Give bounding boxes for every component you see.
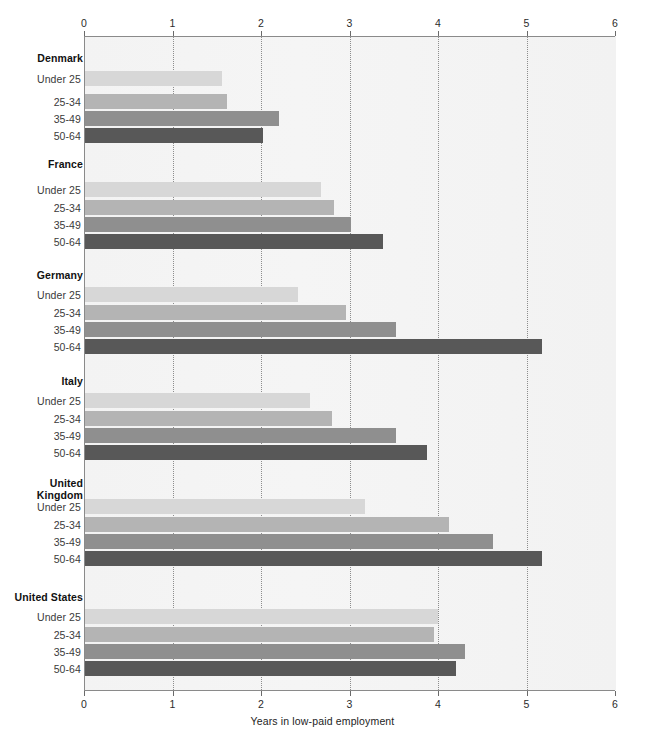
bar-france-35-49 [85, 217, 351, 232]
tick-label-bottom-6: 6 [612, 698, 618, 710]
category-label-50-64: 50-64 [54, 447, 81, 459]
group-label-italy: Italy [61, 375, 83, 387]
tick-label-bottom-2: 2 [258, 698, 264, 710]
bar-united-kingdom-35-49 [85, 534, 493, 549]
bar-denmark-25-34 [85, 94, 227, 109]
x-axis-title-text: Years in low-paid employment [251, 715, 395, 727]
category-label-35-49: 35-49 [54, 113, 81, 125]
tick-mark-bottom-2 [261, 691, 262, 696]
bar-united-kingdom-50-64 [85, 551, 542, 566]
category-label-35-49: 35-49 [54, 324, 81, 336]
tick-mark-bottom-5 [527, 691, 528, 696]
tick-mark-top-2 [261, 31, 262, 36]
bar-italy-35-49 [85, 428, 396, 443]
group-label-denmark: Denmark [37, 52, 83, 64]
category-label-35-49: 35-49 [54, 219, 81, 231]
category-label-50-64: 50-64 [54, 663, 81, 675]
tick-mark-bottom-3 [350, 691, 351, 696]
category-label-25-34: 25-34 [54, 629, 81, 641]
tick-mark-bottom-1 [173, 691, 174, 696]
bar-united-kingdom-25-34 [85, 517, 449, 532]
group-label-united-kingdom: UnitedKingdom [37, 477, 83, 501]
bar-denmark-35-49 [85, 111, 279, 126]
horizontal-bar-chart: 0123456 0123456 DenmarkUnder 2525-3435-4… [0, 0, 655, 742]
category-label-50-64: 50-64 [54, 236, 81, 248]
group-label-line-1: United [37, 477, 83, 489]
category-label-25-34: 25-34 [54, 96, 81, 108]
gridline-x-4 [438, 36, 439, 690]
tick-label-bottom-5: 5 [523, 698, 529, 710]
category-label-50-64: 50-64 [54, 130, 81, 142]
bar-france-25-34 [85, 200, 334, 215]
bar-germany-35-49 [85, 322, 396, 337]
group-label-line-2: Kingdom [37, 489, 83, 501]
bar-denmark-under-25 [85, 71, 222, 86]
bar-united-states-25-34 [85, 627, 434, 642]
tick-mark-top-1 [173, 31, 174, 36]
tick-mark-top-6 [615, 31, 616, 36]
category-label-under-25: Under 25 [37, 73, 81, 85]
category-label-50-64: 50-64 [54, 553, 81, 565]
bar-united-kingdom-under-25 [85, 499, 365, 514]
category-label-under-25: Under 25 [37, 184, 81, 196]
tick-mark-top-3 [350, 31, 351, 36]
bar-united-states-35-49 [85, 644, 465, 659]
x-axis-title: Years in low-paid employment [0, 715, 655, 727]
cropped-header-remnant [0, 0, 655, 13]
gridline-x-3 [350, 36, 351, 690]
bar-denmark-50-64 [85, 128, 263, 143]
tick-label-bottom-1: 1 [169, 698, 175, 710]
category-label-under-25: Under 25 [37, 501, 81, 513]
bar-france-under-25 [85, 182, 321, 197]
bar-italy-50-64 [85, 445, 427, 460]
tick-label-bottom-4: 4 [435, 698, 441, 710]
category-label-35-49: 35-49 [54, 430, 81, 442]
category-label-under-25: Under 25 [37, 611, 81, 623]
bar-italy-25-34 [85, 411, 332, 426]
bar-italy-under-25 [85, 393, 310, 408]
tick-mark-top-0 [84, 31, 85, 36]
group-label-germany: Germany [37, 269, 83, 281]
tick-label-top-4: 4 [435, 17, 441, 29]
bar-france-50-64 [85, 234, 383, 249]
category-label-25-34: 25-34 [54, 307, 81, 319]
category-label-25-34: 25-34 [54, 202, 81, 214]
gridline-x-5 [527, 36, 528, 690]
group-label-france: France [48, 158, 83, 170]
tick-mark-bottom-0 [84, 691, 85, 696]
tick-label-top-6: 6 [612, 17, 618, 29]
tick-mark-bottom-6 [615, 691, 616, 696]
category-label-under-25: Under 25 [37, 289, 81, 301]
tick-label-top-1: 1 [169, 17, 175, 29]
tick-label-top-3: 3 [346, 17, 352, 29]
bar-germany-25-34 [85, 305, 346, 320]
tick-label-top-2: 2 [258, 17, 264, 29]
bar-united-states-50-64 [85, 661, 456, 676]
tick-label-bottom-0: 0 [81, 698, 87, 710]
tick-label-bottom-3: 3 [346, 698, 352, 710]
category-label-25-34: 25-34 [54, 413, 81, 425]
group-label-united-states: United States [15, 591, 83, 603]
category-label-under-25: Under 25 [37, 395, 81, 407]
bar-united-states-under-25 [85, 609, 438, 624]
bar-germany-under-25 [85, 287, 298, 302]
category-label-35-49: 35-49 [54, 536, 81, 548]
category-label-35-49: 35-49 [54, 646, 81, 658]
category-label-25-34: 25-34 [54, 519, 81, 531]
tick-mark-bottom-4 [438, 691, 439, 696]
tick-label-top-0: 0 [81, 17, 87, 29]
category-label-50-64: 50-64 [54, 341, 81, 353]
tick-label-top-5: 5 [523, 17, 529, 29]
bar-germany-50-64 [85, 339, 542, 354]
tick-mark-top-4 [438, 31, 439, 36]
tick-mark-top-5 [527, 31, 528, 36]
